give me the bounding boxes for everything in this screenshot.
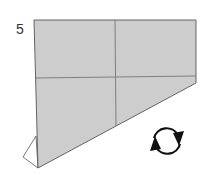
folded-flap: [23, 136, 38, 168]
turn-over-arrow-icon: [150, 128, 184, 154]
origami-diagram: [0, 0, 207, 175]
